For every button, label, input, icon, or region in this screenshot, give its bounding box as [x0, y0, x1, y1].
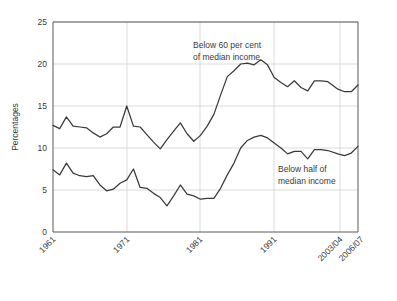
- annotation-below-60-line1: Below 60 per cent: [193, 40, 262, 50]
- y-tick-25: 25: [38, 17, 48, 27]
- y-tick-5: 5: [42, 185, 47, 195]
- y-tick-15: 15: [38, 101, 48, 111]
- chart-container: 25 20 15 10 5 0 Percentages 1961 1971 19…: [0, 0, 397, 301]
- y-axis-title: Percentages: [10, 103, 20, 151]
- line-chart: 25 20 15 10 5 0 Percentages 1961 1971 19…: [0, 0, 397, 301]
- annotation-below-60-line2: of median income: [193, 52, 260, 62]
- annotation-below-half-line1: Below half of: [278, 164, 327, 174]
- y-tick-10: 10: [38, 143, 48, 153]
- annotation-below-half-line2: median income: [278, 176, 336, 186]
- y-tick-0: 0: [42, 227, 47, 237]
- y-tick-20: 20: [38, 59, 48, 69]
